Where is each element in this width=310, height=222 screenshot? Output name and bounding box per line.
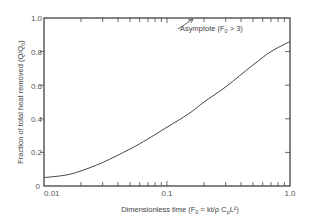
x-axis-label: Dimensionless time (F0 = kt/ρ CpL²) <box>121 205 239 215</box>
y-tick-label: 0.4 <box>31 115 43 124</box>
x-tick-label: 0.01 <box>44 189 60 198</box>
y-tick-label: 0.6 <box>31 82 43 91</box>
plot-frame <box>44 18 290 186</box>
y-tick-label: 0.2 <box>31 148 43 157</box>
asymptote-label: Asymptote (F0 > 3) <box>180 24 243 34</box>
chart: 0 0.2 0.4 0.6 0.8 1.0 0.01 0.1 1.0 Dimen… <box>0 0 310 222</box>
asymptote-annotation: Asymptote (F0 > 3) <box>178 19 243 34</box>
y-tick-label: 0.8 <box>31 48 43 57</box>
y-axis-label: Fraction of total heat removed (Q/Q0) <box>16 40 26 164</box>
y-tick-label: 1.0 <box>31 14 43 23</box>
x-tick-label: 0.1 <box>161 189 173 198</box>
y-axis-ticks <box>40 52 290 153</box>
y-tick-label: 0 <box>36 182 41 191</box>
data-curve <box>44 42 290 178</box>
x-axis-ticks <box>81 18 284 186</box>
x-tick-label: 1.0 <box>284 189 296 198</box>
